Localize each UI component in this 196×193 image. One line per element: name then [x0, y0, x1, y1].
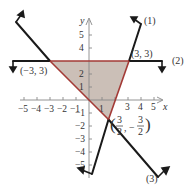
svg-text:2: 2: [138, 126, 143, 137]
svg-text:2: 2: [117, 126, 122, 137]
x-tick-label: 5: [151, 102, 156, 112]
arrow-icon: [159, 67, 165, 72]
arrow-icon: [10, 67, 16, 72]
y-tick-label: 5: [79, 30, 84, 40]
point-label-3-3: (3, 3): [131, 48, 153, 60]
y-tick-label: −4: [75, 147, 85, 157]
line-3-upper: [16, 22, 50, 61]
graph-figure: −5 −4 −3 −2 −1 1 3 4 5 5 4 2 1 −1 −2 −3 …: [0, 0, 196, 193]
x-tick-label: −4: [31, 104, 41, 114]
line-label-1: (1): [144, 15, 156, 27]
svg-text:): ): [145, 115, 151, 134]
line-label-3: (3): [146, 173, 158, 185]
svg-text:3: 3: [138, 114, 143, 125]
x-tick-label: −3: [44, 104, 54, 114]
svg-text:3: 3: [117, 114, 122, 125]
x-tick-labels: −5 −4 −3 −2 −1 1 3 4 5: [18, 102, 156, 114]
x-tick-label: 4: [138, 102, 143, 112]
x-axis-label: x: [162, 101, 168, 112]
line-1-lower: [92, 120, 109, 175]
y-axis-label: y: [79, 15, 85, 26]
svg-text:, −: , −: [124, 122, 135, 133]
arrow-icon: [78, 167, 84, 173]
y-tick-label: 2: [79, 69, 84, 79]
svg-text:(: (: [110, 115, 116, 134]
y-tick-label: −3: [75, 134, 85, 144]
point-label-1.5-neg1.5: ( 3 2 , − 3 2 ): [110, 114, 151, 137]
x-tick-label: −2: [57, 104, 67, 114]
point-label-neg3-3: (−3, 3): [20, 65, 47, 77]
x-tick-label: −5: [18, 104, 28, 114]
y-tick-label: −1: [75, 108, 85, 118]
y-tick-label: −2: [75, 121, 85, 131]
y-tick-label: 4: [79, 43, 84, 53]
arrow-icon: [18, 11, 24, 17]
x-tick-label: 3: [125, 102, 130, 112]
line-label-2: (2): [172, 55, 184, 67]
